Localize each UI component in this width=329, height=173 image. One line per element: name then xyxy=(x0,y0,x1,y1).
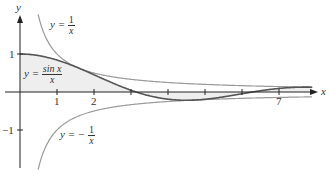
upper-curve-equation: y = 1x xyxy=(50,15,75,36)
y-axis-arrow-icon xyxy=(17,15,23,23)
x-axis-label: x xyxy=(321,86,326,97)
x-tick-label-7: 7 xyxy=(276,96,282,107)
y-tick-label-1: 1 xyxy=(9,49,15,60)
x-tick-label-1: 1 xyxy=(54,96,60,107)
sinc-equation: y = sin xx xyxy=(24,64,62,85)
sinc-shaded-area xyxy=(20,54,312,100)
x-axis-arrow-icon xyxy=(310,89,318,95)
y-tick-label-neg1: −1 xyxy=(2,125,14,136)
lower-curve-equation: y = − 1x xyxy=(60,125,95,146)
x-tick-label-2: 2 xyxy=(91,96,97,107)
y-axis-label: y xyxy=(16,2,21,13)
